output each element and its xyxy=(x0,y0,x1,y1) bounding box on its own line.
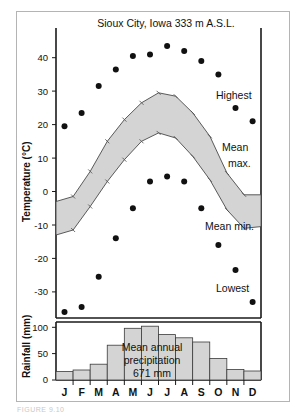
dot-highest-aug xyxy=(181,48,187,54)
dot-highest-jan xyxy=(62,123,68,129)
dot-lowest-dec xyxy=(250,299,256,305)
temp-tick-30: 30 xyxy=(37,86,48,97)
dot-lowest-jul xyxy=(164,173,170,179)
month-label-may: M xyxy=(129,386,138,398)
climate-chart-svg: Sioux City, Iowa 333 m A.S.L. 40 30 20 1… xyxy=(0,0,306,419)
dot-lowest-jun xyxy=(147,179,153,185)
dot-lowest-sep xyxy=(198,205,204,211)
temp-tick-neg10: -10 xyxy=(34,220,48,231)
dot-highest-dec xyxy=(250,118,256,124)
precip-annotation-line3: 671 mm xyxy=(133,367,171,379)
annotation-mean-max-line1: Mean xyxy=(222,141,248,153)
dot-highest-nov xyxy=(233,105,239,111)
rainfall-axis-title: Rainfall (mm) xyxy=(21,315,32,378)
dot-highest-may xyxy=(130,53,136,59)
dot-highest-sep xyxy=(198,58,204,64)
annotation-lowest: Lowest xyxy=(216,282,249,294)
annotation-mean-min: Mean min. xyxy=(205,220,254,232)
precip-annotation-line2: precipitation xyxy=(124,354,181,366)
dot-highest-oct xyxy=(215,71,221,77)
temperature-panel: Sioux City, Iowa 333 m A.S.L. 40 30 20 1… xyxy=(21,17,261,318)
month-label-mar: M xyxy=(94,386,103,398)
figure-caption: FIGURE 9.10 xyxy=(17,406,65,413)
temp-tick-40: 40 xyxy=(37,52,48,63)
month-label-feb: F xyxy=(78,386,85,398)
month-label-dec: D xyxy=(249,386,257,398)
month-label-oct: O xyxy=(214,386,222,398)
bar-mar xyxy=(90,364,107,380)
dot-lowest-jan xyxy=(62,309,68,315)
climate-chart: Sioux City, Iowa 333 m A.S.L. 40 30 20 1… xyxy=(0,0,306,419)
precip-annotation-line1: Mean annual xyxy=(122,341,183,353)
month-label-apr: A xyxy=(112,386,120,398)
rainfall-y-tick-labels: 0 50 100 xyxy=(32,322,48,386)
month-label-jul: J xyxy=(164,386,170,398)
month-axis-labels: J F M A M J J A S O N D xyxy=(62,386,257,398)
month-label-jun: J xyxy=(147,386,153,398)
bar-feb xyxy=(73,370,90,380)
month-label-aug: A xyxy=(180,386,188,398)
temperature-y-tick-labels: 40 30 20 10 0 -10 -20 -30 xyxy=(34,52,48,297)
rain-tick-0: 0 xyxy=(43,374,48,385)
dot-lowest-mar xyxy=(96,274,102,280)
bar-oct xyxy=(210,358,227,380)
dot-lowest-feb xyxy=(79,304,85,310)
rainfall-panel: 0 50 100 Rainfall (mm) Mean annual preci… xyxy=(21,315,261,398)
annotation-highest: Highest xyxy=(216,89,252,101)
bar-nov xyxy=(227,370,244,381)
bar-dec xyxy=(244,371,261,380)
dot-lowest-may xyxy=(130,205,136,211)
rain-tick-50: 50 xyxy=(37,348,48,359)
dot-highest-jun xyxy=(147,51,153,57)
temp-tick-20: 20 xyxy=(37,119,48,130)
temp-tick-10: 10 xyxy=(37,153,48,164)
dot-highest-feb xyxy=(79,110,85,116)
month-label-sep: S xyxy=(198,386,205,398)
dot-lowest-aug xyxy=(181,179,187,185)
temp-tick-neg30: -30 xyxy=(34,286,48,297)
bar-sep xyxy=(193,342,210,380)
month-label-jan: J xyxy=(62,386,68,398)
chart-title: Sioux City, Iowa 333 m A.S.L. xyxy=(97,17,235,29)
bar-jan xyxy=(56,372,73,380)
temp-tick-neg20: -20 xyxy=(34,253,48,264)
month-label-nov: N xyxy=(232,386,240,398)
temperature-axis-title: Temperature (°C) xyxy=(21,142,32,223)
rain-tick-100: 100 xyxy=(32,322,48,333)
dot-highest-mar xyxy=(96,83,102,89)
dot-highest-apr xyxy=(113,66,119,72)
temp-tick-0: 0 xyxy=(43,186,48,197)
dot-lowest-apr xyxy=(113,235,119,241)
annotation-mean-max-line2: max. xyxy=(228,157,251,169)
dot-lowest-nov xyxy=(233,267,239,273)
dot-highest-jul xyxy=(164,43,170,49)
dot-lowest-oct xyxy=(215,242,221,248)
